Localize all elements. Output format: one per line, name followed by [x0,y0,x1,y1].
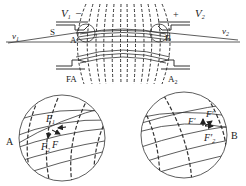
electrode-lower-left [56,60,86,69]
label-A: A [70,35,77,45]
label-S: S [50,27,55,37]
label-F1: F1 [45,113,55,125]
electrostatic-lens-diagram: v1 v2 V1 V2 – + S A B FA A2 [0,0,246,186]
label-point-A: A [6,136,14,147]
label-Fp: F′ [205,109,214,119]
electrode-upper-right [158,22,190,30]
electrode-lower-right [160,60,190,69]
inset-b [138,92,230,184]
inset-a-circle [19,95,105,181]
label-A2: A2 [168,74,178,85]
inset-a [10,95,112,184]
field-lines [77,4,170,84]
label-v2: v2 [222,26,229,37]
electrode-upper-left [56,22,88,30]
label-FA: FA [66,74,77,84]
label-plus: + [173,9,179,20]
label-minus: – [75,7,82,18]
label-V1: V1 [61,7,71,20]
top-lens-diagram [6,4,240,84]
inset-a-labels: A F1 F2 F [6,113,59,153]
force-F-arrow [52,130,60,134]
equipotential-lines [76,29,170,63]
label-F2: F2 [40,141,50,153]
label-F: F [51,139,59,150]
force-F1-arrow [58,127,66,128]
label-F2p: F′2 [203,132,215,144]
label-V2: V2 [195,7,205,20]
label-v1: v1 [12,31,19,42]
label-B: B [165,33,171,43]
label-point-B: B [231,130,238,141]
label-F1p: F′ [187,116,196,126]
